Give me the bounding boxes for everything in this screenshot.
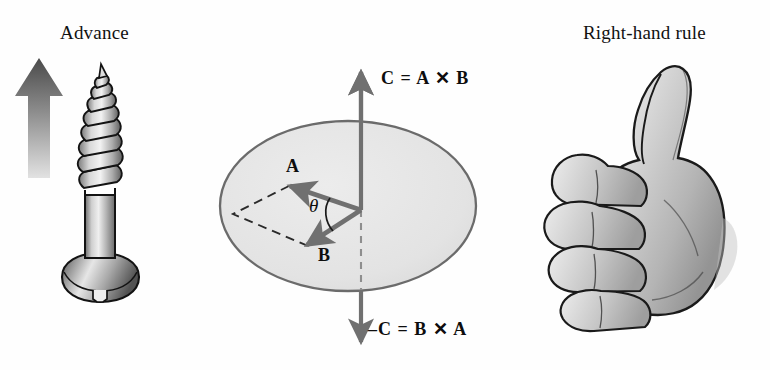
- theta-label: θ: [309, 195, 318, 217]
- vector-a-label: A: [286, 156, 299, 177]
- finger-little: [561, 290, 651, 331]
- vector-graphics-layer: [0, 0, 770, 370]
- advance-caption: Advance: [60, 22, 129, 44]
- right-hand-rule-caption: Right-hand rule: [583, 22, 706, 44]
- finger-ring: [549, 246, 646, 292]
- finger-middle: [544, 202, 645, 249]
- finger-index: [552, 155, 647, 206]
- equation-minus-c-equals-b-cross-a: –C = B ✕ A: [368, 318, 467, 340]
- theta-arc: [326, 198, 333, 231]
- right-hand-illustration: [544, 66, 737, 331]
- vector-a-arrow: [290, 186, 361, 210]
- advance-arrow: [15, 58, 63, 178]
- vector-b-label: B: [318, 245, 330, 266]
- vector-diagram: [220, 72, 476, 342]
- screw-illustration: [62, 64, 139, 302]
- figure-canvas: Advance: [0, 0, 770, 370]
- equation-c-equals-a-cross-b: C = A ✕ B: [381, 67, 469, 89]
- dashed-parallelogram: [233, 186, 308, 246]
- vector-plane-ellipse: [220, 121, 476, 291]
